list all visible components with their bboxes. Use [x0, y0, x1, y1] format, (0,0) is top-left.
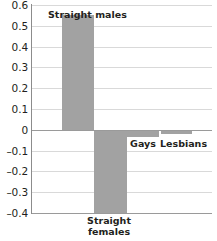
bar-gays [127, 131, 159, 137]
gridline-0.2 [32, 88, 212, 89]
y-tick-label-7: –0.1 [0, 146, 28, 157]
gridline-0.4 [32, 47, 212, 48]
bar-straight-females [94, 131, 127, 213]
bar-lesbians [161, 131, 192, 134]
y-tick-label-5: 0.1 [0, 104, 28, 115]
series-label-lesbians: Lesbians [160, 138, 206, 149]
series-label-straight-males: Straight males [48, 9, 108, 20]
gridline-0.3 [32, 67, 212, 68]
y-tick-label-9: –0.3 [0, 187, 28, 198]
gridline-neg-0.4 [32, 213, 212, 214]
gridline-0.5 [32, 26, 212, 27]
series-label-straight-females-line2: females [88, 226, 130, 237]
bar-chart: 0.6 0.5 0.4 0.3 0.2 0.1 0 –0.1 –0.2 –0.3… [0, 0, 217, 241]
y-tick-label-3: 0.3 [0, 62, 28, 73]
gridline-0.1 [32, 109, 212, 110]
bar-straight-males [62, 15, 94, 129]
gridline-0.6 [32, 5, 212, 6]
series-label-straight-females-line1: Straight [87, 215, 131, 226]
y-tick-label-10: –0.4 [0, 208, 28, 219]
plot-area [32, 5, 212, 213]
y-tick-label-8: –0.2 [0, 166, 28, 177]
y-tick-label-2: 0.4 [0, 42, 28, 53]
y-tick-label-6: 0 [0, 125, 28, 136]
series-label-gays: Gays [127, 138, 159, 149]
y-tick-label-4: 0.2 [0, 83, 28, 94]
y-tick-label-1: 0.5 [0, 21, 28, 32]
series-label-straight-females: Straight females [81, 215, 137, 237]
y-tick-label-0: 0.6 [0, 0, 28, 11]
